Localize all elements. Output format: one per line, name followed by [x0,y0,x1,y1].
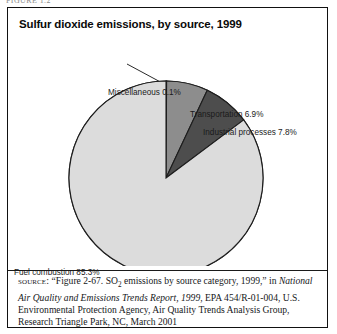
pie-slices [69,81,263,266]
pie-chart-svg [8,38,329,266]
clipped-page-header-text: FIGURE 1.2 [6,0,86,5]
pie-label-miscellaneous: Miscellaneous 0.1% [108,88,181,97]
source-note-part-1: “Figure 2-67. SO [52,275,118,286]
pie-label-industrial-processes: Industrial processes 7.8% [203,128,297,137]
source-note-part-2: emissions by source category, 1999,” in [122,275,279,286]
pie-label-transportation: Transportation 6.9% [190,110,263,119]
clipped-page-header: FIGURE 1.2 [6,0,86,5]
source-divider [8,270,327,271]
figure-frame: Sulfur dioxide emissions, by source, 199… [7,7,328,328]
pie-chart: Miscellaneous 0.1% Transportation 6.9% I… [8,38,329,266]
source-note: source: “Figure 2-67. SO2 emissions by s… [18,275,320,328]
source-note-label: source: [18,275,49,286]
figure-title: Sulfur dioxide emissions, by source, 199… [19,18,242,30]
